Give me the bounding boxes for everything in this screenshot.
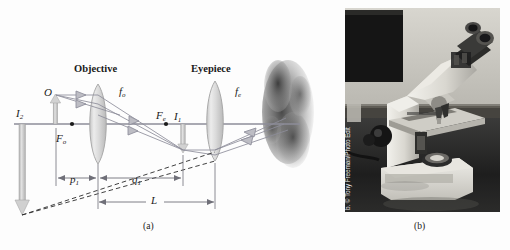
- ray-arrowheads-eyepiece: [241, 128, 256, 145]
- eyepiece-label: Eyepiece: [191, 64, 231, 75]
- ray-arrowheads-objective: [76, 91, 139, 135]
- dimension-ticks: [56, 128, 215, 209]
- panel-a-caption: (a): [143, 222, 154, 232]
- figure-container: Objective Eyepiece fo fe O I2 I1 Fo Fe p…: [0, 0, 510, 250]
- observer-eye-image: [262, 60, 314, 168]
- focal-length-eyepiece-label: fe: [235, 82, 241, 99]
- focal-length-objective-label: fo: [119, 82, 126, 99]
- eyepiece-lens: [207, 81, 224, 161]
- focal-point-eyepiece-label: Fe: [156, 106, 166, 123]
- image2-label: I2: [16, 104, 23, 121]
- focal-point-objective-label: Fo: [56, 129, 66, 146]
- focal-point-objective-dot: [70, 122, 74, 126]
- image2-arrow: [15, 124, 29, 215]
- objective-lens: [90, 84, 107, 164]
- distance-q1-label: q1: [132, 170, 141, 187]
- object-label-O: O: [44, 87, 52, 98]
- tube-length-label: L: [151, 195, 157, 206]
- objective-label: Objective: [74, 64, 117, 75]
- image1-label: I1: [174, 107, 181, 124]
- virtual-image-dashed-lines: [22, 152, 215, 215]
- object-arrow-O: [50, 94, 60, 124]
- panel-b-caption: (b): [414, 222, 425, 232]
- distance-p1-label: p1: [70, 170, 79, 187]
- microscope-photo-svg: [345, 8, 500, 212]
- microscope-photo: b. © Tony Freeman/Photo Edit: [345, 8, 500, 212]
